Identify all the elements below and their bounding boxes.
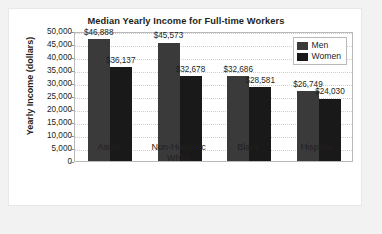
- bar-value-label: $32,678: [176, 66, 206, 74]
- y-axis-tick-label: 30,000: [20, 80, 72, 88]
- x-axis-label-line: Hispanic: [258, 142, 378, 153]
- bar-value-label: $28,581: [245, 77, 275, 85]
- chart-legend: Men Women: [293, 37, 347, 65]
- y-axis-tick-label: 15,000: [20, 119, 72, 127]
- legend-swatch-men: [297, 42, 308, 50]
- legend-item-men: Men: [297, 40, 341, 51]
- legend-label-men: Men: [312, 41, 329, 50]
- y-axis-tick-label: 20,000: [20, 106, 72, 114]
- bar-value-label: $32,686: [223, 66, 253, 74]
- chart-title: Median Yearly Income for Full-time Worke…: [9, 16, 363, 26]
- y-axis-tick-mark: [70, 162, 74, 163]
- legend-swatch-women: [297, 53, 308, 61]
- bar-value-label: $24,030: [315, 88, 345, 96]
- y-axis-tick-label: 25,000: [20, 93, 72, 101]
- y-axis-tick-label: 10,000: [20, 132, 72, 140]
- bar-value-label: $46,888: [84, 29, 114, 37]
- y-axis-tick-label: 50,000: [20, 28, 72, 36]
- legend-item-women: Women: [297, 51, 341, 62]
- legend-label-women: Women: [312, 52, 341, 61]
- bar-value-label: $45,573: [154, 32, 184, 40]
- y-axis-tick-label: 40,000: [20, 54, 72, 62]
- x-axis-label-line: White: [119, 153, 239, 164]
- y-axis-tick-label: 45,000: [20, 41, 72, 49]
- x-axis-label-hispanic: Hispanic: [258, 142, 378, 153]
- figure-card: Median Yearly Income for Full-time Worke…: [8, 8, 362, 206]
- bar-value-label: $36,137: [106, 57, 136, 65]
- y-axis-tick-label: 0: [20, 158, 72, 166]
- y-axis-tick-label: 35,000: [20, 67, 72, 75]
